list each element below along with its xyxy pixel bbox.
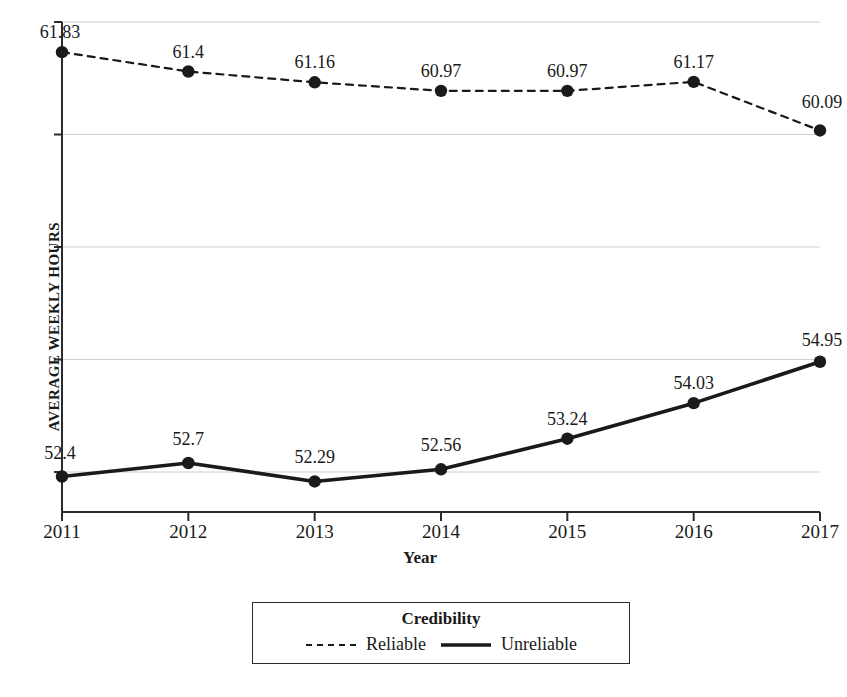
data-point	[561, 433, 573, 445]
data-point	[687, 397, 699, 409]
data-point	[56, 470, 68, 482]
legend-label-unreliable: Unreliable	[501, 634, 577, 655]
data-label: 60.09	[767, 92, 847, 113]
data-label: 60.97	[386, 61, 496, 82]
data-label: 60.97	[512, 61, 622, 82]
x-tick-label: 2017	[780, 521, 847, 543]
data-point	[56, 46, 68, 58]
data-point	[435, 85, 447, 97]
x-tick-label: 2014	[401, 521, 481, 543]
data-label: 54.95	[767, 330, 847, 351]
data-point	[308, 76, 320, 88]
data-label: 54.03	[639, 373, 749, 394]
legend-label-reliable: Reliable	[366, 634, 426, 655]
data-point	[435, 463, 447, 475]
x-tick-label: 2013	[275, 521, 355, 543]
data-point	[182, 65, 194, 77]
data-label: 61.83	[5, 22, 115, 43]
data-label: 61.16	[260, 52, 370, 73]
legend-title: Credibility	[253, 609, 629, 629]
data-point	[182, 457, 194, 469]
x-axis-title: Year	[0, 548, 840, 568]
data-label: 52.4	[5, 443, 115, 464]
data-label: 53.24	[512, 409, 622, 430]
data-label: 61.4	[133, 42, 243, 63]
data-point	[814, 124, 826, 136]
data-label: 52.56	[386, 435, 496, 456]
legend-entries: Reliable Unreliable	[253, 634, 629, 655]
x-tick-label: 2012	[148, 521, 228, 543]
legend-swatch-solid	[440, 639, 492, 651]
data-label: 52.29	[260, 447, 370, 468]
legend-entry-reliable[interactable]: Reliable	[305, 634, 426, 655]
data-label: 52.7	[133, 429, 243, 450]
x-tick-label: 2015	[527, 521, 607, 543]
legend: Credibility Reliable Unreliable	[252, 602, 630, 664]
series-lines	[62, 52, 820, 481]
series-markers	[56, 46, 826, 488]
data-point	[561, 85, 573, 97]
legend-swatch-dashed	[305, 639, 357, 651]
y-axis-title: AVERAGE WEEKLY HOURS	[46, 197, 63, 457]
data-point	[687, 76, 699, 88]
x-tick-label: 2011	[22, 521, 102, 543]
data-point	[814, 356, 826, 368]
data-point	[308, 475, 320, 487]
data-label: 61.17	[639, 52, 749, 73]
x-tick-label: 2016	[654, 521, 734, 543]
legend-entry-unreliable[interactable]: Unreliable	[440, 634, 577, 655]
